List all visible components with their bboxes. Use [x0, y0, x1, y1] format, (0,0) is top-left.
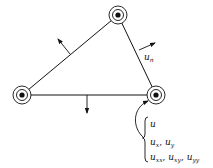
normal-derivative-label: un [144, 52, 154, 63]
finite-element-diagram: un u ux, uy uxx, uxy, uyy [0, 0, 213, 168]
normal-arrow-right-edge-icon [139, 43, 155, 50]
dof-second-derivatives-label: uxx, uxy, uyy [150, 152, 200, 164]
triangle-edges [22, 15, 156, 95]
edge-top-right [118, 15, 156, 95]
curved-pointer-arrow-icon [135, 101, 148, 138]
normal-arrow-left-edge-icon [58, 39, 70, 54]
dof-value-label: u [150, 119, 156, 129]
edge-left-top [22, 15, 118, 95]
node-right [147, 86, 165, 104]
left-brace-icon [143, 117, 149, 162]
dof-first-derivatives-label: ux, uy [150, 137, 175, 149]
normal-arrows [58, 39, 155, 113]
node-left [13, 86, 31, 104]
node-top [109, 6, 127, 24]
